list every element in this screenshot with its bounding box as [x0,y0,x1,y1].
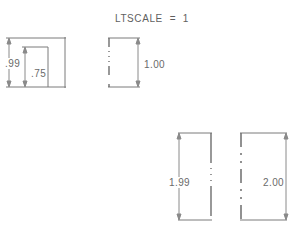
page-title: LTSCALE = 1 [0,13,304,24]
dim-199-arrow-top [177,133,181,139]
dim-100-arrow-bottom [136,81,140,87]
dim-200-arrow-top [284,133,288,139]
dim-199-label: 1.99 [168,177,191,188]
dim-099-arrow-top [7,38,11,44]
dim-075-arrow-top [23,47,27,53]
dim-075-arrow-bottom [23,81,27,87]
dim-200-label: 2.00 [262,177,285,188]
drawing-canvas: LTSCALE = 1 .99 .75 [0,0,304,242]
dim-100-arrow-top [136,38,140,44]
dim-099-label: .99 [4,58,21,69]
dim-099-arrow-bottom [7,81,11,87]
dim-075-label: .75 [30,68,47,79]
dim-200-arrow-bottom [284,214,288,220]
dim-199-arrow-bottom [177,214,181,220]
dim-100-label: 1.00 [143,59,166,70]
